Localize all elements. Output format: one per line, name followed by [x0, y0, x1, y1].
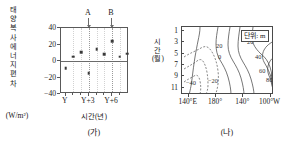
y-axis-label-na: 시 간 (월)	[152, 38, 163, 64]
zero-line	[61, 61, 127, 62]
y-tick-label: 40	[34, 23, 56, 32]
scatter-point	[103, 53, 106, 56]
scatter-point	[95, 48, 98, 51]
y-tick-label: −20	[34, 72, 56, 81]
y-tick-label: 7	[164, 59, 178, 68]
y-tick-label: −40	[34, 89, 56, 98]
scatter-point	[64, 67, 67, 70]
x-tick-label: 180°	[208, 97, 222, 106]
scatter-point	[80, 51, 83, 54]
y-tick-label: 20	[34, 39, 56, 48]
contour-minus20	[184, 47, 218, 93]
y-tick	[57, 77, 60, 78]
x-tick-label: 140°E	[179, 97, 198, 106]
scatter-plot-ga	[60, 27, 128, 93]
y-tick	[57, 27, 60, 28]
y-axis-label-char: 태	[4, 6, 22, 15]
marker-arrow-B	[111, 18, 112, 27]
contour-label-minus20: −20	[208, 77, 218, 84]
minor-gridline	[73, 28, 74, 92]
x-tick-minor	[80, 93, 81, 95]
y-axis-label-char: 양	[4, 15, 22, 24]
marker-arrow-A	[88, 18, 89, 27]
y-tick	[57, 93, 60, 94]
x-axis-title-ga: 시간(년)	[60, 110, 128, 121]
x-tick-minor	[72, 93, 73, 95]
figure-container: 태 양 복 사 에 너 지 편 차 (W/m²) AB 40200−20−40 …	[0, 0, 289, 150]
contour-plot-na: −40 −20 0 20 20 40 60 80 단위: m	[181, 26, 273, 94]
x-tick-minor	[96, 93, 97, 95]
contour-label-60: 60	[259, 67, 265, 74]
y-tick-label: 11	[164, 82, 178, 91]
contour-label-80: 80	[266, 76, 272, 83]
y-tick	[181, 53, 184, 54]
y-tick	[181, 30, 184, 31]
x-tick-label: Y+6	[104, 96, 118, 105]
y-tick-label: 5	[164, 48, 178, 57]
marker-label-A: A	[85, 8, 91, 17]
marker-label-B: B	[108, 8, 113, 17]
x-tick-minor	[103, 93, 104, 95]
y-tick	[57, 44, 60, 45]
scatter-point	[126, 52, 129, 55]
x-tick-label: 100°W	[259, 97, 280, 106]
panel-na: 시 간 (월)	[145, 0, 289, 150]
scatter-point	[88, 72, 91, 75]
panel-ga: 태 양 복 사 에 너 지 편 차 (W/m²) AB 40200−20−40 …	[0, 0, 145, 150]
contour-label-20a: 20	[216, 42, 222, 49]
contour-label-0: 0	[218, 53, 221, 60]
caption-ga: (가)	[60, 126, 128, 137]
minor-gridline	[120, 28, 121, 92]
y-tick	[57, 60, 60, 61]
contour-minus30	[184, 60, 208, 94]
y-axis-label-char: 복	[4, 24, 22, 33]
y-axis-label-char: (월)	[152, 55, 163, 64]
contour-label-group: −40 −20 0 20 20 40 60 80	[186, 38, 272, 86]
unit-legend-box: 단위: m	[241, 30, 269, 42]
y-axis-label-char: 에	[4, 43, 22, 52]
y-tick-label: 0	[34, 56, 56, 65]
y-tick	[181, 64, 184, 65]
y-tick-label: 9	[164, 71, 178, 80]
y-axis-label-ga: 태 양 복 사 에 너 지 편 차	[4, 6, 22, 110]
minor-gridline	[81, 28, 82, 92]
y-axis-label-char: 편	[4, 70, 22, 79]
y-axis-label-char: 차	[4, 80, 22, 89]
x-tick-label: Y+3	[81, 96, 95, 105]
y-tick	[181, 41, 184, 42]
contour-label-40: 40	[255, 53, 261, 60]
guide-line-B	[112, 28, 113, 92]
y-axis-unit-ga: (W/m²)	[0, 111, 34, 120]
contour-label-minus40: −40	[186, 79, 196, 86]
minor-gridline	[104, 28, 105, 92]
y-tick-label: 3	[164, 37, 178, 46]
scatter-point	[72, 56, 75, 59]
x-tick-minor	[119, 93, 120, 95]
y-axis-label-char: 너	[4, 52, 22, 61]
caption-na: (나)	[181, 126, 273, 137]
y-axis-label-char: 시	[152, 38, 163, 47]
guide-line-A	[89, 28, 90, 92]
y-tick	[181, 87, 184, 88]
minor-gridline	[97, 28, 98, 92]
y-tick	[181, 75, 184, 76]
scatter-point	[111, 40, 114, 43]
y-tick-label: 1	[164, 25, 178, 34]
x-tick-label: 140°	[235, 97, 249, 106]
contour-80	[268, 57, 273, 90]
y-axis-label-char: 사	[4, 34, 22, 43]
x-tick-label: Y	[62, 96, 67, 105]
y-axis-label-char: 간	[152, 47, 163, 56]
scatter-point	[118, 56, 121, 59]
